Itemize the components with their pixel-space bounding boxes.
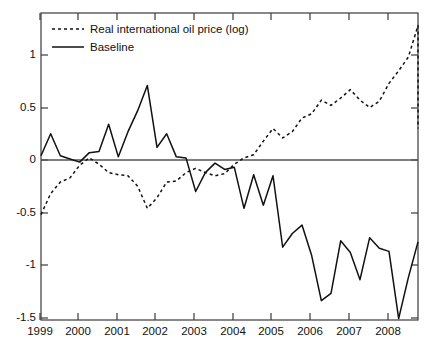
y-tick-label-neg0.5: -0.5 — [2, 206, 36, 218]
x-tick-label-2002: 2002 — [134, 325, 176, 337]
x-tick-label-2000: 2000 — [57, 325, 99, 337]
x-tick-label-2006: 2006 — [289, 325, 331, 337]
y-tick-label-0.5: 0.5 — [6, 101, 36, 113]
x-tick-label-1999: 1999 — [19, 325, 61, 337]
legend-label-baseline: Baseline — [90, 41, 134, 53]
y-tick-label-neg1: -1 — [2, 258, 36, 270]
x-tick-label-2008: 2008 — [367, 325, 409, 337]
legend-label-oil-price: Real international oil price (log) — [90, 23, 249, 35]
x-tick-label-2004: 2004 — [212, 325, 254, 337]
y-tick-label-0: 0 — [6, 153, 36, 165]
x-tick-label-2003: 2003 — [173, 325, 215, 337]
x-tick-label-2001: 2001 — [96, 325, 138, 337]
x-tick-label-2007: 2007 — [328, 325, 370, 337]
chart-figure: Real international oil price (log) Basel… — [0, 0, 432, 356]
x-tick-label-2005: 2005 — [250, 325, 292, 337]
y-tick-label-1: 1 — [6, 48, 36, 60]
y-tick-label-neg1.5: -1.5 — [2, 311, 36, 323]
line-chart-canvas: Real international oil price (log) Basel… — [0, 0, 432, 356]
